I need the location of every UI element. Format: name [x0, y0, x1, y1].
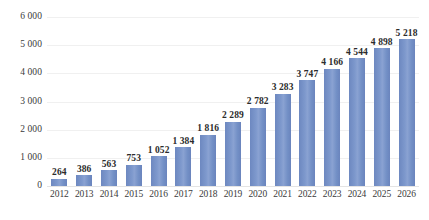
bar-value-label: 3 283: [272, 83, 294, 93]
x-tick-label: 2022: [295, 190, 320, 210]
x-axis: 2012201320142015201620172018201920202021…: [47, 190, 419, 210]
bar[interactable]: 264: [51, 179, 67, 186]
bar-value-label: 753: [127, 154, 142, 164]
bar-chart: 01 0002 0003 0004 0005 0006 000 26438656…: [0, 0, 429, 220]
bar-slot: 3 283: [270, 17, 295, 186]
bar-slot: 4 544: [345, 17, 370, 186]
bar-slot: 1 816: [196, 17, 221, 186]
y-tick-label: 0: [0, 181, 42, 191]
bar-value-label: 264: [52, 168, 67, 178]
bar-value-label: 4 898: [371, 38, 393, 48]
y-tick-label: 6 000: [0, 12, 42, 22]
bar[interactable]: 753: [126, 165, 142, 186]
bar-value-label: 5 218: [396, 29, 418, 39]
x-tick-label: 2012: [47, 190, 72, 210]
bar[interactable]: 2 289: [225, 122, 241, 186]
bar-slot: 264: [47, 17, 72, 186]
y-tick-label: 4 000: [0, 69, 42, 79]
bar-value-label: 4 166: [321, 58, 343, 68]
bar[interactable]: 3 283: [275, 94, 291, 186]
x-tick-label: 2019: [221, 190, 246, 210]
bar[interactable]: 5 218: [399, 39, 415, 186]
bar-value-label: 3 747: [296, 70, 318, 80]
bar-value-label: 4 544: [346, 48, 368, 58]
bar[interactable]: 386: [76, 175, 92, 186]
x-tick-label: 2018: [196, 190, 221, 210]
bar[interactable]: 563: [101, 170, 117, 186]
x-tick-label: 2013: [72, 190, 97, 210]
bar[interactable]: 1 816: [200, 135, 216, 186]
bar-value-label: 2 289: [222, 111, 244, 121]
bar-value-label: 386: [77, 165, 92, 175]
bar-slot: 2 289: [221, 17, 246, 186]
bar[interactable]: 1 384: [175, 147, 191, 186]
bar-value-label: 563: [102, 160, 117, 170]
bar[interactable]: 2 782: [250, 108, 266, 186]
bar-slot: 4 166: [320, 17, 345, 186]
x-tick-label: 2016: [146, 190, 171, 210]
bar-slot: 563: [97, 17, 122, 186]
bar-value-label: 1 816: [197, 124, 219, 134]
bar-series: 2643865637531 0521 3841 8162 2892 7823 2…: [47, 17, 419, 186]
bar-value-label: 1 384: [172, 137, 194, 147]
y-tick-label: 3 000: [0, 97, 42, 107]
bar-slot: 386: [72, 17, 97, 186]
bar-slot: 1 052: [146, 17, 171, 186]
bar[interactable]: 4 166: [324, 69, 340, 186]
x-tick-label: 2024: [345, 190, 370, 210]
y-tick-label: 2 000: [0, 125, 42, 135]
bar-slot: 5 218: [394, 17, 419, 186]
bar-value-label: 1 052: [148, 146, 170, 156]
x-tick-label: 2015: [121, 190, 146, 210]
bar-value-label: 2 782: [247, 97, 269, 107]
x-tick-label: 2014: [97, 190, 122, 210]
y-axis: 01 0002 0003 0004 0005 0006 000: [0, 0, 46, 220]
bar-slot: 1 384: [171, 17, 196, 186]
x-tick-label: 2025: [369, 190, 394, 210]
x-tick-label: 2023: [320, 190, 345, 210]
bar-slot: 4 898: [369, 17, 394, 186]
bar[interactable]: 3 747: [299, 80, 315, 186]
y-tick-label: 1 000: [0, 153, 42, 163]
x-tick-label: 2017: [171, 190, 196, 210]
bar[interactable]: 4 544: [349, 58, 365, 186]
x-tick-label: 2020: [245, 190, 270, 210]
axis-baseline: [47, 186, 419, 187]
bar[interactable]: 1 052: [151, 156, 167, 186]
bar-slot: 2 782: [245, 17, 270, 186]
plot-area: 2643865637531 0521 3841 8162 2892 7823 2…: [47, 17, 419, 186]
bar-slot: 3 747: [295, 17, 320, 186]
bar-slot: 753: [121, 17, 146, 186]
bar[interactable]: 4 898: [374, 48, 390, 186]
x-tick-label: 2021: [270, 190, 295, 210]
x-tick-label: 2026: [394, 190, 419, 210]
y-tick-label: 5 000: [0, 40, 42, 50]
